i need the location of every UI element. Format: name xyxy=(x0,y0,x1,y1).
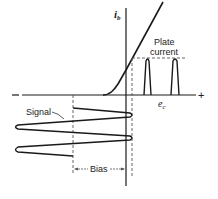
plate-current-label-line2: current xyxy=(150,47,179,57)
plate-pulse-2 xyxy=(171,59,179,95)
x-axis-label: ec xyxy=(158,98,166,111)
plus-sign: + xyxy=(198,89,204,101)
bias-label: Bias xyxy=(90,164,108,174)
signal-leader xyxy=(52,112,64,119)
diagram-canvas: ib ec + Plate current Signal Bias xyxy=(0,0,218,199)
y-axis-label: ib xyxy=(114,8,121,22)
plate-current-label-line1: Plate xyxy=(154,37,175,47)
bias-arrowhead-right xyxy=(121,168,125,171)
bias-arrowhead-left xyxy=(74,168,78,171)
plate-pulse-1 xyxy=(144,59,151,95)
signal-label: Signal xyxy=(26,107,51,117)
